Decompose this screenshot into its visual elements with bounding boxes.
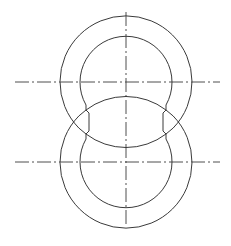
technical-drawing bbox=[0, 0, 231, 246]
right-cross bbox=[166, 110, 173, 134]
right-notch bbox=[163, 105, 166, 139]
left-cross bbox=[79, 110, 86, 134]
left-notch bbox=[86, 105, 89, 139]
